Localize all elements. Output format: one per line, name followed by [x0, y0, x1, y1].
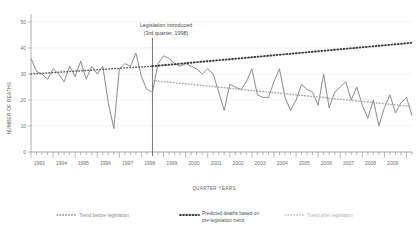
x-tick-label: 1995	[78, 160, 89, 166]
x-tick-label: 1999	[166, 160, 177, 166]
legend-label-trend-before: Trend before legislation	[79, 213, 129, 218]
y-axis-title: NUMBER OF DEATHS	[7, 82, 12, 135]
x-tick-label: 2000	[188, 160, 199, 166]
y-tick-label: 10	[20, 123, 26, 129]
x-tick-label: 1994	[56, 160, 67, 166]
x-tick-label: 1998	[144, 160, 155, 166]
annotation-line-1: Legislation introduced	[140, 22, 192, 28]
legend-label-trend-after: Trend after legislation	[307, 213, 353, 218]
y-tick-label: 50	[20, 19, 26, 25]
x-tick-label: 2004	[277, 160, 288, 166]
chart-container: 01020304050 1993199419951996199719981999…	[0, 0, 420, 234]
y-tick-label: 40	[20, 45, 26, 51]
y-tick-label: 30	[20, 71, 26, 77]
x-tick-label: 2003	[255, 160, 266, 166]
x-tick-label: 2009	[387, 160, 398, 166]
y-tick-label: 0	[23, 149, 26, 155]
x-tick-label: 2005	[299, 160, 310, 166]
trend-before-legislation-line	[31, 66, 152, 74]
x-tick-label: 2006	[321, 160, 332, 166]
observed-deaths-line	[31, 53, 412, 128]
annotation-line-2: (3rd quarter, 1998)	[144, 30, 189, 36]
x-tick-label: 2008	[365, 160, 376, 166]
x-tick-label: 2007	[343, 160, 354, 166]
time-series-chart: 01020304050 1993199419951996199719981999…	[0, 0, 420, 234]
x-axis-title: QUARTER YEARS	[192, 186, 236, 191]
x-tick-label: 1996	[100, 160, 111, 166]
predicted-deaths-trend-line	[152, 43, 412, 66]
x-tick-label: 1997	[122, 160, 133, 166]
y-axis: 01020304050	[20, 14, 31, 155]
y-tick-label: 20	[20, 97, 26, 103]
x-tick-label: 2002	[233, 160, 244, 166]
legend-label-predicted-line2: pre-legislation trend	[202, 218, 244, 223]
x-tick-label: 2001	[210, 160, 221, 166]
legend: Trend before legislation Predicted death…	[57, 211, 353, 223]
x-axis: 1993199419951996199719981999200020012002…	[31, 152, 412, 166]
legend-label-predicted-line1: Predicted deaths based on	[202, 211, 259, 216]
x-tick-label: 1993	[34, 160, 45, 166]
